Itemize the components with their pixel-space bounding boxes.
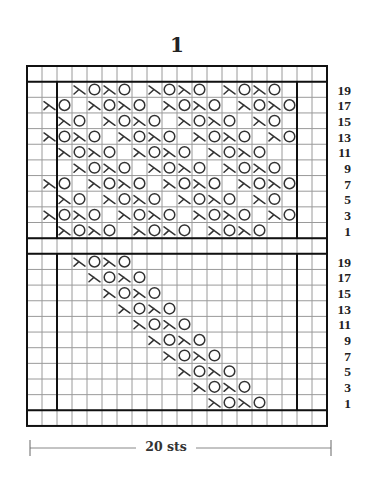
yarn-over-icon (224, 194, 235, 205)
yarn-over-icon (149, 147, 160, 158)
row-label: 3 (329, 380, 351, 395)
yarn-over-icon (74, 194, 85, 205)
k2tog-icon (89, 102, 100, 110)
yarn-over-icon (164, 162, 175, 173)
k2tog-icon (209, 368, 220, 376)
yarn-over-icon (209, 178, 220, 189)
yarn-over-icon (74, 225, 85, 236)
yarn-over-icon (254, 225, 265, 236)
stitch-count-label: 20 sts (136, 439, 196, 454)
row-label: 9 (329, 333, 351, 348)
k2tog-icon (44, 180, 55, 188)
yarn-over-icon (149, 319, 160, 330)
yarn-over-icon (284, 178, 295, 189)
row-label: 11 (329, 317, 351, 332)
row-label: 9 (329, 161, 351, 176)
yarn-over-icon (239, 382, 250, 393)
k2tog-icon (179, 86, 190, 94)
k2tog-icon (74, 164, 85, 172)
yarn-over-icon (269, 162, 280, 173)
k2tog-icon (254, 86, 265, 94)
yarn-over-icon (74, 147, 85, 158)
k2tog-icon (194, 352, 205, 360)
k2tog-icon (194, 133, 205, 141)
k2tog-icon (179, 368, 190, 376)
yarn-over-icon (164, 209, 175, 220)
yarn-over-icon (254, 397, 265, 408)
yarn-over-icon (164, 84, 175, 95)
yarn-over-icon (179, 100, 190, 111)
yarn-over-icon (59, 131, 70, 142)
yarn-over-icon (104, 100, 115, 111)
row-label: 15 (329, 286, 351, 301)
yarn-over-icon (224, 225, 235, 236)
row-label: 1 (329, 224, 351, 239)
yarn-over-icon (194, 366, 205, 377)
yarn-over-icon (104, 225, 115, 236)
k2tog-icon (89, 227, 100, 235)
k2tog-icon (224, 211, 235, 219)
yarn-over-icon (119, 256, 130, 267)
yarn-over-icon (209, 131, 220, 142)
k2tog-icon (149, 305, 160, 313)
k2tog-icon (209, 227, 220, 235)
yarn-over-icon (104, 147, 115, 158)
k2tog-icon (134, 149, 145, 157)
k2tog-icon (149, 164, 160, 172)
yarn-over-icon (179, 147, 190, 158)
yarn-over-icon (194, 115, 205, 126)
yarn-over-icon (194, 162, 205, 173)
k2tog-icon (59, 227, 70, 235)
k2tog-icon (194, 180, 205, 188)
row-label: 5 (329, 192, 351, 207)
k2tog-icon (239, 227, 250, 235)
yarn-over-icon (224, 397, 235, 408)
yarn-over-icon (104, 272, 115, 283)
yarn-over-icon (209, 100, 220, 111)
yarn-over-icon (239, 131, 250, 142)
yarn-over-icon (89, 256, 100, 267)
yarn-over-icon (89, 131, 100, 142)
k2tog-icon (164, 102, 175, 110)
k2tog-icon (149, 133, 160, 141)
yarn-over-icon (224, 115, 235, 126)
yarn-over-icon (164, 131, 175, 142)
k2tog-icon (44, 102, 55, 110)
yarn-over-icon (194, 335, 205, 346)
k2tog-icon (254, 164, 265, 172)
k2tog-icon (224, 133, 235, 141)
k2tog-icon (104, 117, 115, 125)
yarn-over-icon (89, 84, 100, 95)
yarn-over-icon (239, 84, 250, 95)
k2tog-icon (164, 149, 175, 157)
row-label: 19 (329, 255, 351, 270)
k2tog-icon (224, 383, 235, 391)
k2tog-icon (179, 196, 190, 204)
yarn-over-icon (149, 288, 160, 299)
yarn-over-icon (254, 100, 265, 111)
yarn-over-icon (119, 288, 130, 299)
k2tog-icon (74, 86, 85, 94)
row-label: 1 (329, 396, 351, 411)
yarn-over-icon (134, 303, 145, 314)
yarn-over-icon (119, 115, 130, 126)
k2tog-icon (134, 117, 145, 125)
knitting-chart (0, 0, 384, 483)
yarn-over-icon (164, 303, 175, 314)
yarn-over-icon (119, 194, 130, 205)
k2tog-icon (239, 399, 250, 407)
k2tog-icon (104, 196, 115, 204)
yarn-over-icon (239, 209, 250, 220)
yarn-over-icon (134, 272, 145, 283)
yarn-over-icon (59, 209, 70, 220)
k2tog-icon (179, 117, 190, 125)
yarn-over-icon (269, 194, 280, 205)
k2tog-icon (209, 117, 220, 125)
row-label: 13 (329, 130, 351, 145)
k2tog-icon (179, 164, 190, 172)
k2tog-icon (239, 149, 250, 157)
row-label: 17 (329, 270, 351, 285)
k2tog-icon (119, 274, 130, 282)
k2tog-icon (149, 336, 160, 344)
k2tog-icon (119, 211, 130, 219)
